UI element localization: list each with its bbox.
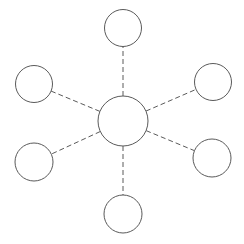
node-upper-right [195, 64, 232, 101]
edge-hub-lower-right [146, 131, 194, 151]
node-lower-left [15, 143, 53, 181]
star-diagram [0, 0, 244, 244]
edge-hub-upper-left [51, 91, 100, 111]
node-upper-left [16, 66, 53, 103]
edge-hub-lower-left [51, 132, 100, 155]
nodes [15, 10, 232, 234]
node-bottom [104, 195, 142, 233]
hub-node [98, 96, 148, 146]
node-lower-right [193, 139, 231, 177]
node-top [105, 10, 142, 47]
edge-hub-upper-right [146, 89, 196, 111]
